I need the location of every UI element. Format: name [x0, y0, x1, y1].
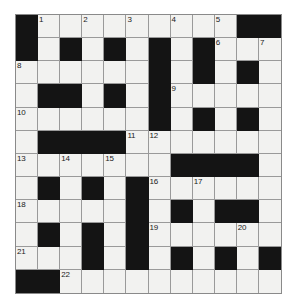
letter-cell[interactable]	[237, 247, 259, 270]
letter-cell[interactable]: 10	[16, 108, 38, 131]
crossword-grid[interactable]: 12345678910111213141516171819202122	[15, 14, 282, 294]
letter-cell[interactable]	[149, 154, 171, 177]
letter-cell[interactable]	[16, 131, 38, 154]
letter-cell[interactable]: 17	[193, 177, 215, 200]
letter-cell[interactable]	[82, 154, 104, 177]
letter-cell[interactable]	[193, 15, 215, 38]
letter-cell[interactable]: 22	[60, 270, 82, 293]
letter-cell[interactable]	[237, 131, 259, 154]
letter-cell[interactable]: 7	[259, 38, 281, 61]
letter-cell[interactable]	[104, 247, 126, 270]
letter-cell[interactable]	[60, 15, 82, 38]
letter-cell[interactable]	[82, 108, 104, 131]
letter-cell[interactable]	[104, 15, 126, 38]
letter-cell[interactable]	[259, 108, 281, 131]
letter-cell[interactable]: 19	[149, 223, 171, 246]
letter-cell[interactable]	[126, 61, 148, 84]
letter-cell[interactable]: 9	[171, 84, 193, 107]
letter-cell[interactable]	[171, 108, 193, 131]
letter-cell[interactable]	[237, 38, 259, 61]
letter-cell[interactable]: 1	[38, 15, 60, 38]
letter-cell[interactable]: 15	[104, 154, 126, 177]
letter-cell[interactable]: 21	[16, 247, 38, 270]
letter-cell[interactable]	[215, 108, 237, 131]
letter-cell[interactable]	[60, 108, 82, 131]
letter-cell[interactable]	[171, 38, 193, 61]
letter-cell[interactable]	[259, 270, 281, 293]
letter-cell[interactable]: 18	[16, 200, 38, 223]
letter-cell[interactable]: 8	[16, 61, 38, 84]
letter-cell[interactable]	[193, 84, 215, 107]
letter-cell[interactable]	[171, 61, 193, 84]
letter-cell[interactable]	[237, 84, 259, 107]
letter-cell[interactable]	[259, 84, 281, 107]
letter-cell[interactable]	[126, 154, 148, 177]
letter-cell[interactable]	[104, 108, 126, 131]
letter-cell[interactable]	[104, 200, 126, 223]
letter-cell[interactable]	[259, 61, 281, 84]
letter-cell[interactable]	[171, 270, 193, 293]
letter-cell[interactable]: 13	[16, 154, 38, 177]
letter-cell[interactable]: 11	[126, 131, 148, 154]
letter-cell[interactable]	[171, 223, 193, 246]
letter-cell[interactable]	[126, 38, 148, 61]
letter-cell[interactable]	[60, 61, 82, 84]
letter-cell[interactable]	[259, 154, 281, 177]
letter-cell[interactable]	[149, 15, 171, 38]
letter-cell[interactable]	[60, 247, 82, 270]
letter-cell[interactable]	[215, 177, 237, 200]
letter-cell[interactable]: 3	[126, 15, 148, 38]
letter-cell[interactable]	[104, 223, 126, 246]
letter-cell[interactable]	[60, 223, 82, 246]
letter-cell[interactable]	[237, 270, 259, 293]
letter-cell[interactable]	[38, 61, 60, 84]
letter-cell[interactable]	[215, 223, 237, 246]
letter-cell[interactable]	[38, 247, 60, 270]
letter-cell[interactable]	[126, 108, 148, 131]
letter-cell[interactable]: 4	[171, 15, 193, 38]
letter-cell[interactable]: 16	[149, 177, 171, 200]
letter-cell[interactable]	[259, 177, 281, 200]
letter-cell[interactable]: 5	[215, 15, 237, 38]
letter-cell[interactable]	[149, 247, 171, 270]
letter-cell[interactable]	[82, 200, 104, 223]
letter-cell[interactable]	[38, 200, 60, 223]
letter-cell[interactable]	[82, 38, 104, 61]
letter-cell[interactable]	[60, 177, 82, 200]
letter-cell[interactable]	[171, 177, 193, 200]
letter-cell[interactable]	[16, 177, 38, 200]
letter-cell[interactable]	[193, 223, 215, 246]
letter-cell[interactable]	[60, 200, 82, 223]
letter-cell[interactable]	[104, 270, 126, 293]
letter-cell[interactable]	[171, 131, 193, 154]
letter-cell[interactable]: 6	[215, 38, 237, 61]
letter-cell[interactable]	[38, 154, 60, 177]
letter-cell[interactable]	[193, 200, 215, 223]
letter-cell[interactable]: 20	[237, 223, 259, 246]
letter-cell[interactable]	[104, 177, 126, 200]
letter-cell[interactable]	[215, 131, 237, 154]
letter-cell[interactable]	[215, 61, 237, 84]
letter-cell[interactable]	[126, 84, 148, 107]
letter-cell[interactable]: 14	[60, 154, 82, 177]
letter-cell[interactable]	[193, 270, 215, 293]
letter-cell[interactable]	[259, 223, 281, 246]
letter-cell[interactable]	[16, 223, 38, 246]
letter-cell[interactable]	[126, 270, 148, 293]
letter-cell[interactable]	[38, 108, 60, 131]
letter-cell[interactable]	[193, 247, 215, 270]
letter-cell[interactable]	[38, 38, 60, 61]
letter-cell[interactable]	[237, 177, 259, 200]
letter-cell[interactable]	[16, 84, 38, 107]
letter-cell[interactable]	[82, 270, 104, 293]
letter-cell[interactable]	[193, 131, 215, 154]
letter-cell[interactable]	[215, 270, 237, 293]
letter-cell[interactable]	[259, 131, 281, 154]
letter-cell[interactable]	[82, 84, 104, 107]
letter-cell[interactable]: 12	[149, 131, 171, 154]
letter-cell[interactable]	[215, 84, 237, 107]
letter-cell[interactable]	[82, 61, 104, 84]
letter-cell[interactable]	[259, 200, 281, 223]
letter-cell[interactable]	[149, 270, 171, 293]
letter-cell[interactable]	[104, 61, 126, 84]
